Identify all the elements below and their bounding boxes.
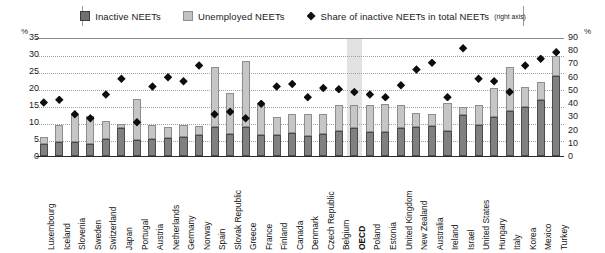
- share-marker: [241, 114, 250, 123]
- share-marker: [40, 98, 49, 107]
- category-label-poland: Poland: [373, 224, 381, 250]
- legend-item-unemployed: Unemployed NEETs: [183, 11, 285, 22]
- category-label-czech-republic: Czech Republic: [327, 191, 335, 250]
- category-label-norway: Norway: [203, 222, 211, 250]
- category-label-hungary: Hungary: [498, 218, 506, 250]
- category-label-finland: Finland: [280, 223, 288, 250]
- share-marker: [552, 48, 561, 57]
- share-marker: [304, 93, 313, 102]
- share-marker: [443, 93, 452, 102]
- right-tick-70: 70: [568, 58, 592, 68]
- share-marker: [319, 84, 328, 93]
- legend-label-inactive: Inactive NEETs: [95, 11, 161, 22]
- category-label-australia: Australia: [436, 217, 444, 250]
- right-tick-90: 90: [568, 32, 592, 42]
- share-marker: [412, 65, 421, 74]
- category-label-israel: Israel: [467, 230, 475, 250]
- share-marker: [350, 88, 359, 97]
- diamond-icon: [307, 12, 316, 21]
- category-label-france: France: [265, 224, 273, 250]
- right-tick-30: 30: [568, 111, 592, 121]
- share-marker: [210, 110, 219, 119]
- left-tick-30: 30: [15, 49, 39, 59]
- category-label-united-states: United States: [482, 200, 490, 250]
- category-label-new-zealand: New Zealand: [420, 201, 428, 250]
- category-label-germany: Germany: [187, 216, 195, 250]
- left-tick-10: 10: [15, 117, 39, 127]
- share-marker: [133, 118, 142, 127]
- category-label-canada: Canada: [296, 221, 304, 250]
- left-tick-25: 25: [15, 66, 39, 76]
- category-label-sweden: Sweden: [94, 220, 102, 250]
- category-label-ireland: Ireland: [451, 224, 459, 250]
- category-label-portugal: Portugal: [141, 219, 149, 250]
- category-label-united-kingdom: United Kingdom: [405, 190, 413, 250]
- share-marker: [474, 74, 483, 83]
- share-marker: [521, 61, 530, 70]
- category-label-japan: Japan: [125, 227, 133, 250]
- share-marker: [164, 73, 173, 82]
- share-marker: [117, 74, 126, 83]
- category-label-slovak-republic: Slovak Republic: [234, 190, 242, 250]
- share-marker: [428, 59, 437, 68]
- category-label-iceland: Iceland: [63, 223, 71, 250]
- share-marker: [226, 107, 235, 116]
- category-labels: LuxembourgIcelandSloveniaSwedenSwitzerla…: [36, 158, 564, 253]
- right-tick-10: 10: [568, 138, 592, 148]
- share-marker: [335, 85, 344, 94]
- category-label-oecd: OECD: [358, 226, 366, 250]
- category-label-italy: Italy: [513, 235, 521, 250]
- category-label-slovenia: Slovenia: [78, 218, 86, 250]
- share-marker: [71, 110, 80, 119]
- share-marker: [288, 80, 297, 89]
- left-tick-5: 5: [15, 134, 39, 144]
- legend-item-share: Share of inactive NEETs in total NEETs (…: [307, 11, 526, 22]
- share-marker: [505, 88, 514, 97]
- share-series-group: [36, 39, 564, 156]
- share-marker: [490, 77, 499, 86]
- category-label-mexico: Mexico: [544, 223, 552, 250]
- share-marker: [179, 77, 188, 86]
- share-marker: [366, 90, 375, 99]
- square-dark-icon: [80, 11, 90, 21]
- category-label-austria: Austria: [156, 224, 164, 250]
- right-tick-40: 40: [568, 98, 592, 108]
- neet-chart: Inactive NEETs Unemployed NEETs Share of…: [0, 0, 605, 253]
- category-label-luxembourg: Luxembourg: [47, 203, 55, 250]
- legend-item-inactive: Inactive NEETs: [80, 11, 161, 22]
- share-marker: [257, 100, 266, 109]
- share-marker: [55, 96, 64, 105]
- right-tick-0: 0: [568, 151, 592, 161]
- right-tick-20: 20: [568, 125, 592, 135]
- share-marker: [397, 81, 406, 90]
- share-marker: [86, 114, 95, 123]
- category-label-netherlands: Netherlands: [172, 205, 180, 250]
- right-tick-60: 60: [568, 72, 592, 82]
- share-marker: [536, 55, 545, 64]
- share-marker: [195, 61, 204, 70]
- category-label-belgium: Belgium: [342, 220, 350, 250]
- share-marker: [272, 82, 281, 91]
- plot-area: [36, 38, 564, 157]
- legend-label-unemployed: Unemployed NEETs: [198, 11, 285, 22]
- right-tick-50: 50: [568, 85, 592, 95]
- category-label-spain: Spain: [218, 229, 226, 250]
- share-marker: [148, 82, 157, 91]
- legend-label-share: Share of inactive NEETs in total NEETs: [321, 11, 490, 22]
- square-light-icon: [183, 11, 193, 21]
- category-label-estonia: Estonia: [389, 222, 397, 250]
- category-label-switzerland: Switzerland: [109, 207, 117, 250]
- share-marker: [102, 90, 111, 99]
- category-label-korea: Korea: [529, 228, 537, 250]
- category-label-greece: Greece: [249, 223, 257, 250]
- legend-sublabel-share: (right axis): [494, 13, 526, 20]
- left-tick-15: 15: [15, 100, 39, 110]
- category-label-denmark: Denmark: [311, 216, 319, 250]
- left-tick-35: 35: [15, 32, 39, 42]
- share-marker: [459, 44, 468, 53]
- category-label-turkey: Turkey: [560, 225, 568, 250]
- right-tick-80: 80: [568, 45, 592, 55]
- chart-legend: Inactive NEETs Unemployed NEETs Share of…: [82, 6, 524, 26]
- share-marker: [381, 93, 390, 102]
- left-tick-20: 20: [15, 83, 39, 93]
